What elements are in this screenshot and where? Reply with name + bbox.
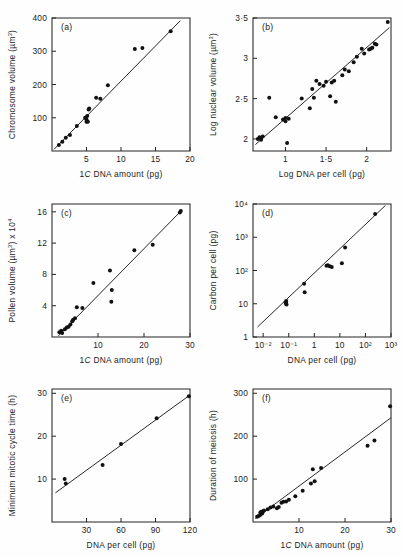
panel-label: (a) (61, 22, 72, 32)
data-point (91, 281, 95, 285)
data-point (388, 404, 392, 408)
data-point (187, 394, 191, 398)
y-tick-label: 2·5 (235, 94, 248, 104)
data-point (322, 84, 326, 88)
axis-frame (253, 389, 391, 522)
x-tick-label: 10 (294, 525, 304, 535)
data-point (267, 96, 271, 100)
x-tick-label: 90 (151, 525, 161, 535)
y-tick-label: 2 (243, 134, 248, 144)
x-tick-label: 10² (359, 340, 372, 350)
y-tick-label: 1 (243, 332, 248, 342)
data-point (313, 479, 317, 483)
y-tick-label: 30 (37, 388, 47, 398)
x-tick-label: 10 (116, 154, 126, 164)
data-point (94, 96, 98, 100)
panel-label: (f) (262, 393, 271, 403)
x-tick-label: 2 (364, 154, 369, 164)
data-point (80, 306, 84, 310)
data-point (60, 331, 64, 335)
axis-frame (52, 18, 190, 151)
x-tick-label: 30 (185, 340, 195, 350)
chart-panel-d: 10⁻²10⁻¹11010²10³11010²10³10⁴(d)DNA per … (201, 186, 403, 372)
y-axis-label: Log nuclear volume (µm3) (208, 33, 218, 136)
data-point (386, 20, 390, 24)
x-tick-label: 60 (116, 525, 126, 535)
data-point (110, 288, 114, 292)
data-point (106, 83, 110, 87)
y-tick-label: 8 (42, 269, 47, 279)
x-tick-label: 20 (340, 525, 350, 535)
y-tick-label: 3·5 (235, 13, 248, 23)
chart-panel-e: 306090120102030(e)DNA per cell (pg)Minim… (0, 371, 202, 557)
chart-panel-a: 5101520100200300400(a)1C DNA amount (pg)… (0, 0, 202, 186)
data-point (330, 265, 334, 269)
data-point (133, 47, 137, 51)
x-tick-label: 30 (82, 525, 92, 535)
data-point (324, 80, 328, 84)
data-point (301, 489, 305, 493)
panel-label: (d) (262, 208, 273, 218)
data-point (343, 68, 347, 72)
x-tick-label: 10 (335, 340, 345, 350)
data-point (310, 87, 314, 91)
data-point (179, 209, 183, 213)
x-tick-label: 10⁻¹ (280, 340, 297, 350)
data-point (362, 51, 366, 55)
y-tick-label: 400 (32, 13, 47, 23)
x-tick-label: 1 (312, 340, 317, 350)
x-axis-label: 1C DNA amount (pg) (280, 540, 363, 550)
data-point (366, 444, 370, 448)
data-point (86, 120, 90, 124)
data-point (119, 442, 123, 446)
data-point (340, 73, 344, 77)
data-point (328, 94, 332, 98)
y-tick-label: 10² (235, 266, 248, 276)
data-point (155, 416, 159, 420)
data-point (109, 300, 113, 304)
data-point (334, 100, 338, 104)
data-point (271, 505, 275, 509)
y-tick-label: 300 (32, 46, 47, 56)
y-axis-label: Chromosome volume (µm3) (7, 30, 17, 139)
x-axis-label: DNA per cell (pg) (288, 355, 357, 365)
x-tick-label: 1·5 (320, 154, 333, 164)
y-tick-label: 10 (37, 474, 47, 484)
data-point (151, 243, 155, 247)
data-point (140, 46, 144, 50)
data-point (300, 97, 304, 101)
data-point (98, 97, 102, 101)
axis-frame (253, 204, 391, 337)
data-point (262, 508, 266, 512)
data-point (347, 69, 351, 73)
x-axis-label: 1C DNA amount (pg) (79, 355, 162, 365)
y-tick-label: 100 (32, 113, 47, 123)
y-tick-label: 12 (37, 238, 47, 248)
y-tick-label: 10⁴ (234, 199, 248, 209)
x-tick-label: 10³ (385, 340, 398, 350)
y-tick-label: 4 (42, 301, 47, 311)
data-point (75, 305, 79, 309)
y-tick-label: 100 (233, 474, 248, 484)
regression-line (54, 21, 180, 150)
data-point (73, 316, 77, 320)
data-point (370, 46, 374, 50)
data-point (283, 119, 287, 123)
data-point (319, 466, 323, 470)
y-tick-label: 200 (32, 80, 47, 90)
data-point (64, 136, 68, 140)
axis-frame (52, 389, 190, 522)
chart-panel-b: 11·5222·533·5(b)Log DNA per cell (pg)Log… (201, 0, 403, 186)
y-tick-label: 10³ (235, 232, 248, 242)
data-point (60, 140, 64, 144)
x-tick-label: 20 (139, 340, 149, 350)
data-point (372, 438, 376, 442)
data-point (303, 290, 307, 294)
x-tick-label: 10⁻² (255, 340, 272, 350)
data-point (63, 477, 67, 481)
data-point (374, 43, 378, 47)
data-point (75, 124, 79, 128)
x-tick-label: 1 (283, 154, 288, 164)
x-axis-label: DNA per cell (pg) (87, 540, 156, 550)
y-axis-label: Pollen volume (µm3) x 104 (7, 218, 17, 322)
